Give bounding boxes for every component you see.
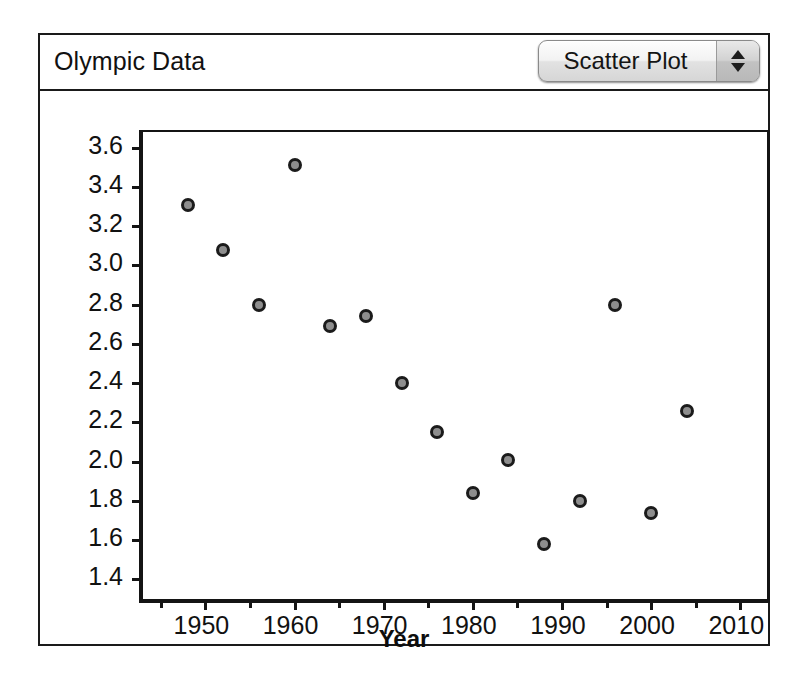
x-axis-minor-tick xyxy=(695,599,698,608)
x-axis-tick xyxy=(472,599,475,610)
chevron-down-icon[interactable] xyxy=(731,63,745,72)
x-axis-tick-label: 1960 xyxy=(246,613,336,638)
chart-area: Gap_in_seconds Year 1.41.61.82.02.22.42.… xyxy=(40,91,768,644)
scatter-point xyxy=(430,425,444,439)
x-axis-minor-tick xyxy=(160,599,163,608)
scatter-point xyxy=(181,198,195,212)
x-axis-tick xyxy=(383,599,386,610)
y-axis-tick xyxy=(132,461,143,464)
x-axis-minor-tick xyxy=(338,599,341,608)
scatter-point xyxy=(359,309,373,323)
y-axis-tick xyxy=(132,500,143,503)
plot-type-dropdown[interactable]: Scatter Plot xyxy=(538,40,760,82)
x-axis-tick-label: 1980 xyxy=(424,613,514,638)
scatter-point xyxy=(573,494,587,508)
scatter-point xyxy=(501,453,515,467)
y-axis-tick xyxy=(132,147,143,150)
y-axis-tick xyxy=(132,421,143,424)
x-axis-tick xyxy=(650,599,653,610)
x-axis-tick-label: 1950 xyxy=(156,613,246,638)
x-axis-tick xyxy=(294,599,297,610)
page-title: Olympic Data xyxy=(54,47,205,76)
x-axis-tick-label: 1970 xyxy=(335,613,425,638)
y-axis-tick xyxy=(132,539,143,542)
x-axis-tick-label: 2000 xyxy=(602,613,692,638)
x-axis-tick-label: 1990 xyxy=(513,613,603,638)
scatter-point xyxy=(252,298,266,312)
x-axis-tick xyxy=(739,599,742,610)
y-axis-tick xyxy=(132,186,143,189)
x-axis-minor-tick xyxy=(427,599,430,608)
scatter-point xyxy=(395,376,409,390)
chart-window: Olympic Data Scatter Plot Gap_in_seconds… xyxy=(38,33,770,646)
chevron-up-icon[interactable] xyxy=(731,50,745,59)
plot-type-value: Scatter Plot xyxy=(539,41,716,81)
x-axis-minor-tick xyxy=(606,599,609,608)
plot-type-stepper[interactable] xyxy=(716,41,759,81)
y-axis-tick xyxy=(132,225,143,228)
x-axis-minor-tick xyxy=(516,599,519,608)
scatter-point xyxy=(466,486,480,500)
y-axis-tick xyxy=(132,578,143,581)
plot-frame xyxy=(139,130,770,603)
scatter-point xyxy=(288,158,302,172)
y-axis-tick xyxy=(132,264,143,267)
chart-titlebar: Olympic Data Scatter Plot xyxy=(40,35,768,91)
y-axis-tick xyxy=(132,382,143,385)
x-axis-tick xyxy=(204,599,207,610)
scatter-point xyxy=(644,506,658,520)
y-axis-tick xyxy=(132,304,143,307)
scatter-point xyxy=(323,319,337,333)
scatter-point xyxy=(680,404,694,418)
x-axis-tick-label: 2010 xyxy=(691,613,781,638)
x-axis-tick xyxy=(561,599,564,610)
scatter-point xyxy=(608,298,622,312)
x-axis-minor-tick xyxy=(249,599,252,608)
y-axis-tick xyxy=(132,343,143,346)
scatter-point xyxy=(537,537,551,551)
scatter-point xyxy=(216,243,230,257)
